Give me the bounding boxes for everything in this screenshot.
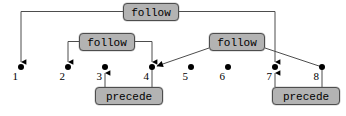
diagram-canvas: follow follow follow precede precede 1 2… (0, 0, 346, 116)
node-follow-left-label: follow (87, 37, 127, 48)
node-precede-right-label: precede (283, 91, 329, 102)
leaf-dot-1[interactable] (18, 64, 24, 70)
edge-follow-right-to-4 (157, 48, 209, 66)
node-precede-left[interactable]: precede (95, 87, 163, 105)
leaf-dot-7[interactable] (272, 64, 278, 70)
node-precede-left-label: precede (106, 91, 152, 102)
edge-follow-left-to-2 (68, 42, 79, 63)
leaf-dot-3[interactable] (102, 64, 108, 70)
leaf-dot-6[interactable] (225, 64, 231, 70)
leaf-dot-8[interactable] (319, 64, 325, 70)
node-precede-right[interactable]: precede (272, 87, 340, 105)
leaf-number-5: 5 (176, 71, 188, 82)
node-follow-right[interactable]: follow (209, 33, 265, 51)
leaf-dot-4[interactable] (149, 64, 155, 70)
leaf-number-4: 4 (137, 71, 149, 82)
edge-follow-left-to-4 (135, 42, 152, 63)
leaf-number-3: 3 (90, 71, 102, 82)
leaf-number-2: 2 (53, 71, 65, 82)
leaf-number-7: 7 (260, 71, 272, 82)
leaf-dot-2[interactable] (65, 64, 71, 70)
leaf-number-1: 1 (6, 71, 18, 82)
node-follow-left[interactable]: follow (79, 33, 135, 51)
leaf-number-6: 6 (213, 71, 225, 82)
node-follow-right-label: follow (217, 37, 257, 48)
leaf-dot-5[interactable] (188, 64, 194, 70)
node-follow-top[interactable]: follow (123, 3, 179, 21)
leaf-number-8: 8 (307, 71, 319, 82)
node-follow-top-label: follow (131, 7, 171, 18)
